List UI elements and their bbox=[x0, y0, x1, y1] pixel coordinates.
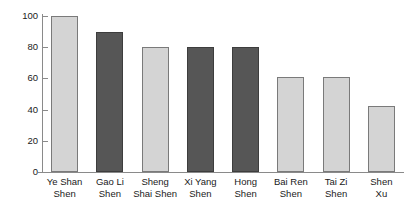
x-axis-label: Xi YangShen bbox=[178, 176, 223, 200]
bar bbox=[277, 77, 304, 172]
x-axis-label-line1: Tai Zi bbox=[314, 176, 359, 188]
x-axis-label-line2: Shen bbox=[178, 188, 223, 200]
x-axis-label-line2: Shen bbox=[87, 188, 132, 200]
x-axis-label-line2: Shai Shen bbox=[133, 188, 178, 200]
x-axis-label: ShenXu bbox=[359, 176, 404, 200]
x-axis-label-line2: Xu bbox=[359, 188, 404, 200]
y-axis-tick-label: 100 bbox=[8, 11, 38, 21]
x-axis-line bbox=[38, 172, 404, 173]
bar bbox=[96, 32, 123, 172]
x-axis-label-line1: Sheng bbox=[133, 176, 178, 188]
x-axis-label: Ye ShanShen bbox=[42, 176, 87, 200]
x-axis-label-line1: Shen bbox=[359, 176, 404, 188]
x-axis-label: Gao LiShen bbox=[87, 176, 132, 200]
bar bbox=[51, 16, 78, 172]
y-axis-tick-label: 20 bbox=[8, 136, 38, 146]
x-axis-label-line1: Bai Ren bbox=[268, 176, 313, 188]
bar bbox=[142, 47, 169, 172]
y-axis-tick-label: 80 bbox=[8, 42, 38, 52]
x-axis-label: ShengShai Shen bbox=[133, 176, 178, 200]
x-axis-label-line2: Shen bbox=[223, 188, 268, 200]
y-axis-tick-label: 40 bbox=[8, 105, 38, 115]
bars-layer bbox=[42, 16, 404, 172]
y-axis-tick-label: 60 bbox=[8, 73, 38, 83]
x-axis-label-line2: Shen bbox=[268, 188, 313, 200]
y-axis-tick bbox=[42, 172, 48, 173]
x-axis-label: HongShen bbox=[223, 176, 268, 200]
bar bbox=[187, 47, 214, 172]
x-axis-label-line1: Ye Shan bbox=[42, 176, 87, 188]
bar bbox=[323, 77, 350, 172]
y-axis-tick-label: 0 bbox=[8, 167, 38, 177]
x-axis-labels: Ye ShanShenGao LiShenShengShai ShenXi Ya… bbox=[42, 176, 404, 208]
x-axis-label: Bai RenShen bbox=[268, 176, 313, 200]
x-axis-label-line1: Xi Yang bbox=[178, 176, 223, 188]
bar bbox=[232, 47, 259, 172]
x-axis-label-line2: Shen bbox=[314, 188, 359, 200]
x-axis-label-line2: Shen bbox=[42, 188, 87, 200]
x-axis-label-line1: Hong bbox=[223, 176, 268, 188]
bar-chart: 020406080100 Ye ShanShenGao LiShenShengS… bbox=[0, 0, 406, 210]
x-axis-label-line1: Gao Li bbox=[87, 176, 132, 188]
x-axis-label: Tai ZiShen bbox=[314, 176, 359, 200]
bar bbox=[368, 106, 395, 172]
